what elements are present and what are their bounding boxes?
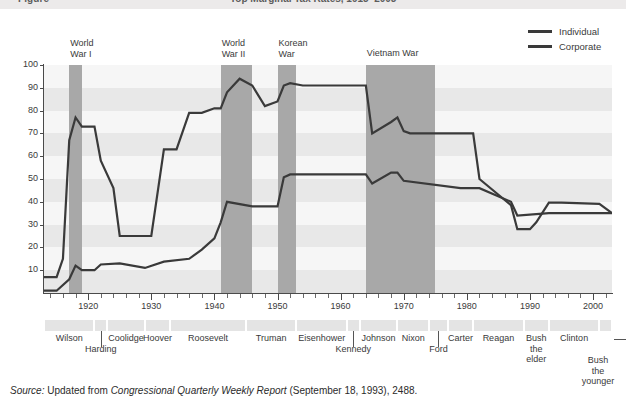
president-label: Bushtheyounger	[582, 355, 615, 387]
x-tick-minor	[505, 294, 506, 298]
president-label: Wilson	[56, 333, 83, 344]
x-tick-minor	[568, 294, 569, 298]
x-tick-minor	[189, 294, 190, 298]
x-tick-minor	[315, 294, 316, 298]
president-label: Truman	[256, 333, 287, 344]
x-tick-major	[530, 294, 531, 300]
president-segment	[474, 320, 522, 331]
x-tick-minor	[517, 294, 518, 298]
x-tick-minor	[76, 294, 77, 298]
president-label: Clinton	[560, 333, 588, 344]
series-lines	[44, 65, 612, 293]
x-tick-major	[214, 294, 215, 300]
x-tick-minor	[606, 294, 607, 298]
president-segment	[550, 320, 598, 331]
x-tick-minor	[429, 294, 430, 298]
y-tick-label: 30	[10, 219, 38, 229]
figure-title-left: Figure	[18, 0, 49, 4]
x-tick-major	[278, 294, 279, 300]
president-segment	[525, 320, 548, 331]
president-segment	[600, 320, 611, 331]
x-tick-minor	[328, 294, 329, 298]
x-tick-minor	[454, 294, 455, 298]
x-tick-label: 2000	[583, 301, 603, 311]
war-label-korean: KoreanWar	[279, 38, 308, 59]
x-tick-minor	[113, 294, 114, 298]
figure-tax-rates: Figure Top Marginal Tax Rates, 1913–2003…	[0, 0, 626, 404]
president-label: Johnson	[361, 333, 395, 344]
source-prefix: Source:	[10, 385, 44, 396]
legend-item-individual: Individual	[528, 24, 620, 39]
x-tick-minor	[164, 294, 165, 298]
x-tick-minor	[50, 294, 51, 298]
x-tick-minor	[442, 294, 443, 298]
war-label-world: WorldWar I	[70, 38, 93, 59]
x-tick-minor	[303, 294, 304, 298]
x-tick-label: 1980	[457, 301, 477, 311]
president-leader-line	[614, 339, 626, 340]
president-segment	[430, 320, 447, 331]
y-tick-label: 50	[10, 173, 38, 183]
president-label: Kennedy	[335, 344, 371, 355]
plot-area	[44, 65, 612, 293]
x-tick-major	[151, 294, 152, 300]
x-tick-minor	[353, 294, 354, 298]
x-tick-minor	[366, 294, 367, 298]
y-tick-label: 70	[10, 127, 38, 137]
x-tick-minor	[555, 294, 556, 298]
y-tick-label: 10	[10, 264, 38, 274]
x-tick-minor	[290, 294, 291, 298]
x-tick-minor	[580, 294, 581, 298]
legend-swatch-icon	[528, 45, 552, 48]
y-tick-label: 40	[10, 196, 38, 206]
president-label: Carter	[448, 333, 473, 344]
x-tick-minor	[202, 294, 203, 298]
source-note: Source: Updated from Congressional Quart…	[10, 385, 417, 396]
x-tick-minor	[378, 294, 379, 298]
x-tick-minor	[126, 294, 127, 298]
president-segment	[45, 320, 93, 331]
x-tick-label: 1940	[204, 301, 224, 311]
president-segment	[108, 320, 144, 331]
x-tick-minor	[139, 294, 140, 298]
x-tick-major	[404, 294, 405, 300]
x-tick-label: 1970	[394, 301, 414, 311]
president-segment	[398, 320, 428, 331]
president-segment	[171, 320, 245, 331]
x-tick-minor	[265, 294, 266, 298]
president-label: Coolidge	[108, 333, 144, 344]
x-tick-major	[88, 294, 89, 300]
president-label: Nixon	[402, 333, 425, 344]
y-tick-label: 60	[10, 150, 38, 160]
x-tick-label: 1960	[331, 301, 351, 311]
president-segment	[297, 320, 345, 331]
x-tick-minor	[479, 294, 480, 298]
x-tick-label: 1930	[141, 301, 161, 311]
chart-legend: Individual Corporate	[528, 24, 620, 54]
source-publication: Congressional Quarterly Weekly Report	[111, 385, 287, 396]
x-tick-minor	[416, 294, 417, 298]
x-tick-minor	[177, 294, 178, 298]
y-tick-label: 80	[10, 105, 38, 115]
x-tick-minor	[63, 294, 64, 298]
x-tick-minor	[492, 294, 493, 298]
president-segment	[146, 320, 169, 331]
legend-swatch-icon	[528, 30, 552, 33]
x-tick-major	[467, 294, 468, 300]
x-tick-minor	[252, 294, 253, 298]
legend-label-corporate: Corporate	[559, 41, 601, 52]
x-tick-minor	[101, 294, 102, 298]
x-tick-major	[341, 294, 342, 300]
x-tick-label: 1990	[520, 301, 540, 311]
x-tick-label: 1950	[267, 301, 287, 311]
x-tick-major	[593, 294, 594, 300]
y-tick-label: 20	[10, 241, 38, 251]
figure-title-right: Top Marginal Tax Rates, 1913–2003	[230, 0, 396, 4]
president-segment	[348, 320, 359, 331]
source-text-b: (September 18, 1993), 2488.	[287, 385, 418, 396]
legend-item-corporate: Corporate	[528, 39, 620, 54]
x-tick-minor	[240, 294, 241, 298]
figure-title-strip: Figure Top Marginal Tax Rates, 1913–2003	[0, 0, 626, 9]
legend-label-individual: Individual	[559, 26, 599, 37]
president-segment	[247, 320, 295, 331]
